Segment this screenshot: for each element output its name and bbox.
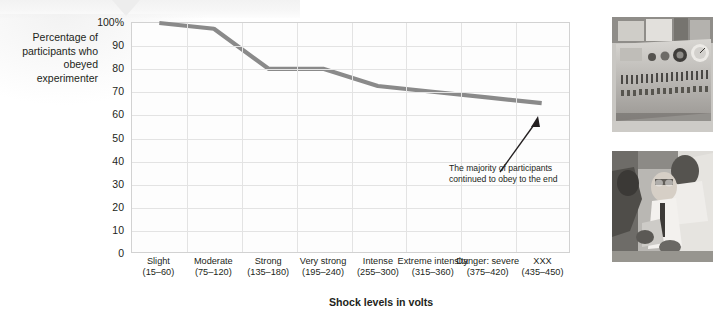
vertical-gridline	[406, 23, 407, 252]
y-axis-tick-20: 20	[112, 201, 124, 213]
horizontal-gridline	[132, 69, 569, 70]
category-voltage-range: (435–450)	[504, 267, 582, 278]
milgram-obedience-figure: Percentage of participants who obeyed ex…	[0, 0, 716, 318]
horizontal-gridline	[132, 208, 569, 209]
vertical-gridline	[352, 23, 353, 252]
horizontal-gridline	[132, 92, 569, 93]
category-name: Intense	[363, 256, 393, 266]
category-name: Slight	[147, 256, 170, 266]
x-axis-title: Shock levels in volts	[329, 296, 433, 308]
category-name: Moderate	[194, 256, 233, 266]
shock-generator-image	[612, 17, 713, 132]
shock-generator-photo	[612, 17, 713, 132]
annotation-arrow-icon	[480, 108, 555, 176]
category-name: Strong	[255, 256, 282, 266]
vertical-gridline	[461, 23, 462, 252]
y-axis-tick-90: 90	[112, 39, 124, 51]
vertical-gridline	[187, 23, 188, 252]
y-axis-tick-30: 30	[112, 178, 124, 190]
y-axis-tick-40: 40	[112, 155, 124, 167]
y-axis-tick-60: 60	[112, 108, 124, 120]
category-name: XXX	[533, 256, 551, 266]
y-axis-tick-50: 50	[112, 132, 124, 144]
y-axis-tick-100: 100%	[97, 16, 124, 28]
learner-experiment-image	[612, 151, 713, 262]
learner-strapped-in-chair-photo	[612, 151, 713, 262]
y-axis-tick-70: 70	[112, 85, 124, 97]
vertical-gridline	[297, 23, 298, 252]
x-axis-category-xxx: XXX(435–450)	[504, 256, 582, 278]
horizontal-gridline	[132, 46, 569, 47]
x-axis-category-labels: Slight(15–60)Moderate(75–120)Strong(135–…	[131, 256, 570, 300]
y-axis-tick-10: 10	[112, 224, 124, 236]
vertical-gridline	[242, 23, 243, 252]
horizontal-gridline	[132, 185, 569, 186]
y-axis-title: Percentage of participants who obeyed ex…	[6, 31, 98, 85]
horizontal-gridline	[132, 231, 569, 232]
y-axis-tick-80: 80	[112, 62, 124, 74]
y-axis-tick-labels: 100%9080706050403020100	[88, 22, 128, 254]
